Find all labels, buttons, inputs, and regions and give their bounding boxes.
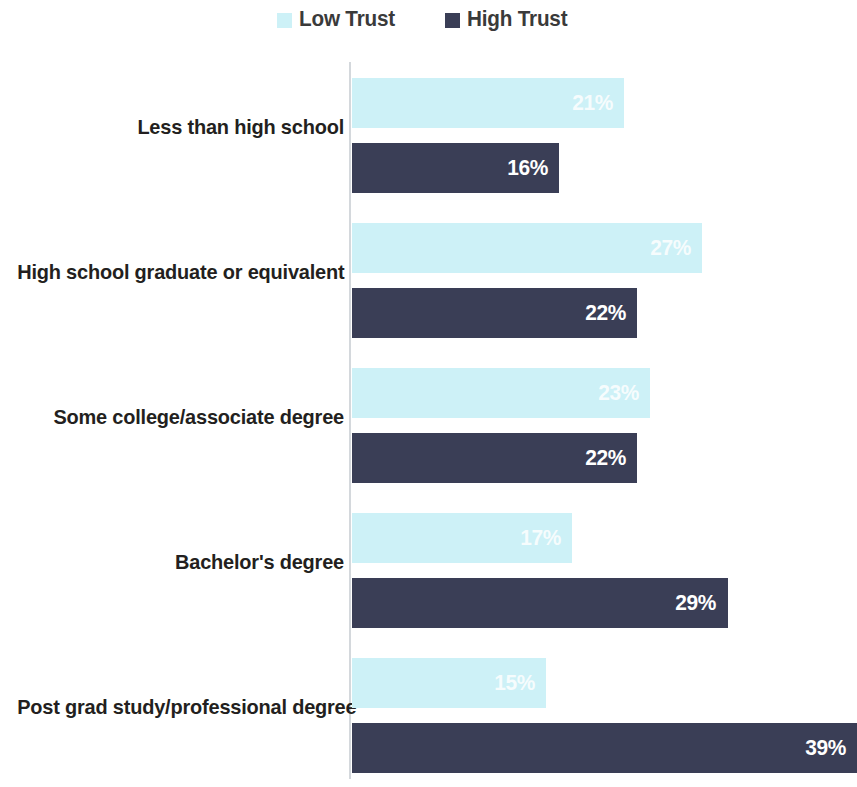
- legend-item-low-trust: Low Trust: [277, 6, 401, 32]
- bar-high-trust: 29%: [352, 578, 728, 628]
- bar-low-trust: 27%: [352, 223, 702, 273]
- legend-label-low-trust: Low Trust: [299, 6, 395, 32]
- bar-high-trust: 22%: [352, 288, 637, 338]
- bar-value-label: 27%: [650, 235, 691, 261]
- bar-value-label: 22%: [585, 300, 626, 326]
- bar-group-some-college: Some college/associate degree 23% 22%: [0, 352, 850, 482]
- category-label: Bachelor's degree: [17, 547, 344, 577]
- bar-value-label: 16%: [507, 155, 548, 181]
- bar-high-trust: 22%: [352, 433, 637, 483]
- bar-group-bachelors-degree: Bachelor's degree 17% 29%: [0, 497, 850, 627]
- legend-swatch-icon-low-trust: [277, 13, 292, 28]
- bar-low-trust: 15%: [352, 658, 546, 708]
- legend-item-high-trust: High Trust: [445, 6, 574, 32]
- bar-low-trust: 17%: [352, 513, 572, 563]
- category-label: Some college/associate degree: [17, 402, 344, 432]
- bar-value-label: 21%: [572, 90, 613, 116]
- bar-value-label: 39%: [805, 735, 846, 761]
- category-label: High school graduate or equivalent: [17, 257, 344, 287]
- legend-label-high-trust: High Trust: [467, 6, 567, 32]
- bar-value-label: 22%: [585, 445, 626, 471]
- bar-group-less-than-high-school: Less than high school 21% 16%: [0, 62, 850, 192]
- bar-group-post-grad: Post grad study/professional degree 15% …: [0, 642, 850, 772]
- bar-low-trust: 23%: [352, 368, 650, 418]
- bar-value-label: 17%: [520, 525, 561, 551]
- bar-group-high-school-graduate: High school graduate or equivalent 27% 2…: [0, 207, 850, 337]
- bar-value-label: 23%: [598, 380, 639, 406]
- chart-legend: Low Trust High Trust: [0, 4, 850, 34]
- bar-value-label: 29%: [676, 590, 717, 616]
- bar-high-trust: 16%: [352, 143, 559, 193]
- category-label: Less than high school: [17, 112, 344, 142]
- bar-value-label: 15%: [494, 670, 535, 696]
- bar-high-trust: 39%: [352, 723, 857, 773]
- category-label: Post grad study/professional degree: [17, 692, 344, 722]
- plot-area: Less than high school 21% 16% High schoo…: [0, 62, 850, 787]
- legend-swatch-icon-high-trust: [445, 13, 460, 28]
- bar-low-trust: 21%: [352, 78, 624, 128]
